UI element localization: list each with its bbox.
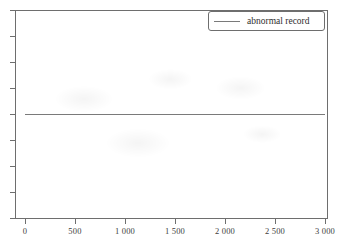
x-axis-tick-label: 2 500 (265, 226, 285, 236)
x-axis-tick (325, 219, 326, 224)
x-axis-tick (75, 219, 76, 224)
series-line-abnormal-record (75, 114, 125, 115)
y-axis-tick (10, 88, 15, 89)
x-axis-tick-label: 2 000 (215, 226, 235, 236)
series-line-abnormal-record (225, 114, 275, 115)
y-axis-tick (10, 36, 15, 37)
x-axis-tick (275, 219, 276, 224)
y-axis-tick (10, 114, 15, 115)
legend-line-swatch-abnormal-record (214, 21, 240, 22)
y-axis-line (15, 10, 16, 219)
chart-legend[interactable]: abnormal record (208, 11, 325, 31)
x-axis-tick-label: 500 (68, 226, 81, 236)
y-axis-tick (10, 10, 15, 11)
y-axis-tick (10, 140, 15, 141)
x-axis-tick-label: 0 (23, 226, 27, 236)
x-axis-tick-label: 1 000 (115, 226, 135, 236)
series-line-abnormal-record (275, 114, 325, 115)
series-line-abnormal-record (175, 114, 225, 115)
series-line-abnormal-record (25, 114, 75, 115)
legend-label-abnormal-record: abnormal record (247, 16, 310, 27)
x-axis-tick (125, 219, 126, 224)
x-axis-tick (175, 219, 176, 224)
x-axis-tick-label: 1 500 (165, 226, 185, 236)
series-line-abnormal-record (125, 114, 175, 115)
chart-figure: 05001 0001 5002 0002 5003 000 abnormal r… (0, 0, 338, 250)
x-axis-tick-label: 3 000 (315, 226, 335, 236)
x-axis-tick (25, 219, 26, 224)
x-axis-line (15, 218, 328, 219)
paper-watermark (30, 55, 300, 165)
y-axis-tick (10, 166, 15, 167)
y-axis-tick (10, 218, 15, 219)
y-axis-tick (10, 192, 15, 193)
y-axis-tick (10, 62, 15, 63)
plot-frame-right (327, 10, 328, 219)
x-axis-tick (225, 219, 226, 224)
